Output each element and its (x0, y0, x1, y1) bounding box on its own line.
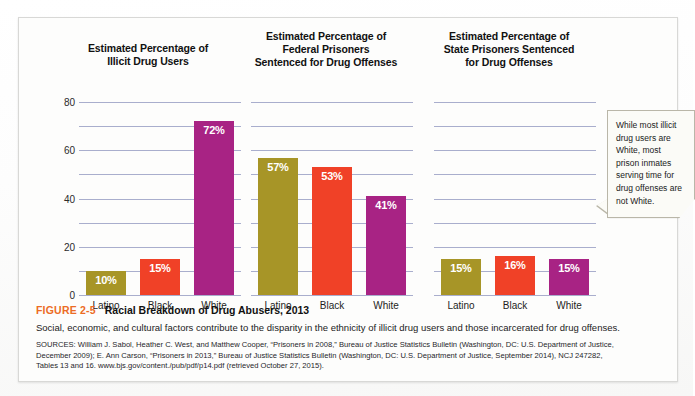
figure-number: FIGURE 2-5 (36, 304, 96, 316)
caption-title-line: FIGURE 2-5Racial Breakdown of Drug Abuse… (36, 303, 661, 317)
chart-title: Estimated Percentage ofIllicit Drug User… (55, 42, 241, 68)
y-axis-labels: 020406080 (53, 90, 75, 295)
sources-line-2: December 2009); E. Ann Carson, “Prisoner… (36, 351, 661, 362)
chart-title-line: Sentenced for Drug Offenses (233, 56, 419, 69)
bar-fill (194, 121, 234, 295)
chart-title: Estimated Percentage ofState Prisoners S… (416, 30, 602, 69)
figure-caption: FIGURE 2-5Racial Breakdown of Drug Abuse… (36, 303, 661, 372)
bar-white: 41%White (366, 196, 406, 295)
bar-black: 53%Black (312, 167, 352, 295)
bar-black: 15%Black (140, 259, 180, 295)
y-axis-tick-label: 0 (53, 290, 75, 301)
bar-latino: 57%Latino (258, 158, 298, 295)
bar-white: 72%White (194, 121, 234, 295)
bar-fill (258, 158, 298, 295)
chart-title-line: Estimated Percentage of (416, 30, 602, 43)
chart-title-line: State Prisoners Sentenced (416, 43, 602, 56)
gridline (251, 295, 413, 296)
bar-black: 16%Black (495, 256, 535, 295)
callout-annotation: While most illicit drug users are White,… (607, 110, 695, 218)
figure-sources: SOURCES: William J. Sabol, Heather C. We… (36, 340, 661, 372)
chart-group-2: Estimated Percentage ofFederal Prisoners… (233, 18, 419, 290)
gridline (434, 295, 596, 296)
bars: 15%Latino16%Black15%White (434, 90, 596, 295)
bar-value-label: 15% (549, 262, 589, 274)
bar-white: 15%White (549, 259, 589, 295)
chart-title-line: for Drug Offenses (416, 56, 602, 69)
bar-value-label: 57% (258, 161, 298, 173)
chart-title: Estimated Percentage ofFederal Prisoners… (233, 30, 419, 69)
bar-value-label: 72% (194, 124, 234, 136)
bar-value-label: 10% (86, 274, 126, 286)
y-axis-tick-label: 20 (53, 241, 75, 252)
bar-value-label: 53% (312, 170, 352, 182)
chart-title-line: Estimated Percentage of (233, 30, 419, 43)
bar-latino: 10%Latino (86, 271, 126, 295)
chart-group-3: Estimated Percentage ofState Prisoners S… (416, 18, 602, 290)
plot-area: 02040608010%Latino15%Black72%White (79, 90, 241, 295)
figure-description: Social, economic, and cultural factors c… (36, 321, 661, 334)
bar-value-label: 16% (495, 259, 535, 271)
figure-panel: Estimated Percentage ofIllicit Drug User… (18, 17, 678, 382)
plot-area: 57%Latino53%Black41%White (251, 90, 413, 295)
y-axis-tick-label: 40 (53, 193, 75, 204)
gridline (79, 295, 241, 296)
bar-value-label: 41% (366, 199, 406, 211)
chart-group-1: Estimated Percentage ofIllicit Drug User… (55, 18, 241, 290)
bar-fill (312, 167, 352, 295)
charts-container: Estimated Percentage ofIllicit Drug User… (19, 18, 679, 290)
sources-line-3: Tables 13 and 16. www.bjs.gov/content./p… (36, 361, 661, 372)
y-axis-tick-label: 60 (53, 145, 75, 156)
bar-latino: 15%Latino (441, 259, 481, 295)
bars: 57%Latino53%Black41%White (251, 90, 413, 295)
bars: 10%Latino15%Black72%White (79, 90, 241, 295)
bar-value-label: 15% (441, 262, 481, 274)
sources-line-1: SOURCES: William J. Sabol, Heather C. We… (36, 340, 661, 351)
chart-title-line: Estimated Percentage of (55, 42, 241, 55)
y-axis-tick-label: 80 (53, 97, 75, 108)
plot-area: 15%Latino16%Black15%White (434, 90, 596, 295)
chart-title-line: Federal Prisoners (233, 43, 419, 56)
figure-title: Racial Breakdown of Drug Abusers, 2013 (105, 304, 309, 316)
chart-title-line: Illicit Drug Users (55, 55, 241, 68)
bar-value-label: 15% (140, 262, 180, 274)
